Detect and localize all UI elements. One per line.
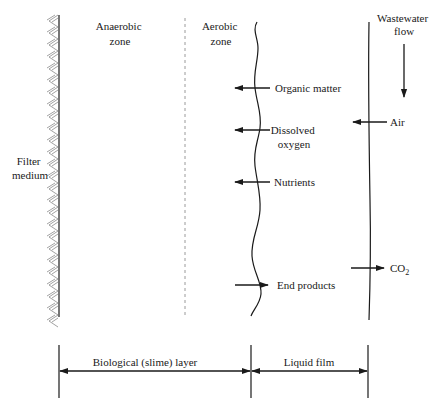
wastewater-flow-label: Wastewater flow — [377, 12, 431, 37]
organic-matter-label: Organic matter — [275, 82, 341, 94]
biological-layer-label: Biological (slime) layer — [93, 356, 198, 369]
nutrients-label: Nutrients — [274, 176, 315, 188]
trickling-filter-diagram: Anaerobic zone Aerobic zone Filter mediu… — [0, 0, 444, 405]
dimension-bars — [59, 345, 368, 398]
end-products-label: End products — [277, 279, 335, 291]
filter-medium-label: Filter medium — [12, 155, 48, 181]
air-label: Air — [390, 116, 405, 128]
dissolved-oxygen-label: Dissolved oxygen — [271, 124, 318, 150]
biofilm-surface-line — [251, 22, 261, 316]
co2-label: CO2 — [390, 262, 409, 277]
aerobic-zone-label: Aerobic zone — [202, 20, 240, 47]
liquid-film-label: Liquid film — [284, 356, 335, 368]
liquid-film-outer-line — [369, 22, 371, 320]
filter-medium-wall — [47, 15, 59, 327]
anaerobic-zone-label: Anaerobic zone — [96, 20, 145, 47]
hatch-pattern — [47, 15, 58, 327]
